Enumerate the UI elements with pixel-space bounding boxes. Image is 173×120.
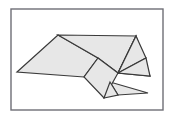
origami-figure xyxy=(0,0,173,120)
